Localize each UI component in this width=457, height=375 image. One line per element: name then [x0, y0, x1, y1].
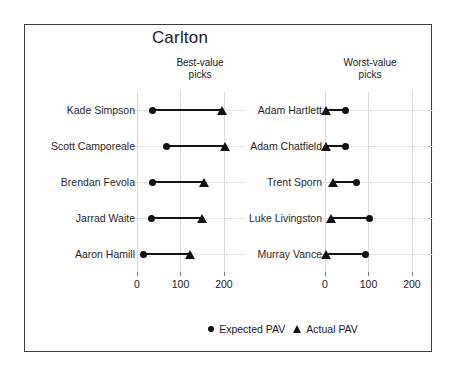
actual-pav-marker: [217, 106, 227, 115]
panel-heading-worst-value: Worst-value picks: [310, 57, 430, 81]
row-label-jarrad-waite: Jarrad Waite: [76, 212, 135, 225]
x-axis-tick: [137, 272, 138, 276]
actual-pav-marker: [321, 142, 331, 151]
panel-heading-line1: Best-value: [140, 57, 260, 69]
panel-best-value: 0100200 Kade SimpsonScott CamporealeBren…: [40, 92, 240, 292]
chart-legend: Expected PAV Actual PAV: [178, 320, 388, 338]
panel-worst-value: 0100200 Adam HartlettAdam ChatfieldTrent…: [233, 92, 429, 292]
panel-heading-line2: picks: [310, 69, 430, 81]
x-axis-tick-label: 0: [117, 278, 157, 290]
expected-pav-marker: [342, 143, 349, 150]
connector-line: [326, 253, 365, 255]
triangle-marker-icon: [293, 325, 301, 333]
plot-area-best-value: 0100200: [137, 92, 237, 272]
x-axis-tick: [325, 272, 326, 276]
row-label-adam-hartlett: Adam Hartlett: [258, 104, 322, 117]
panel-heading-line1: Worst-value: [310, 57, 430, 69]
actual-pav-marker: [321, 250, 331, 259]
chart-figure: Carlton Best-value picks Worst-value pic…: [0, 0, 457, 375]
connector-line: [167, 145, 225, 147]
x-axis-tick: [224, 272, 225, 276]
expected-pav-marker: [149, 107, 156, 114]
panel-heading-line2: picks: [140, 69, 260, 81]
x-axis-tick-label: 100: [160, 278, 200, 290]
connector-line: [152, 217, 202, 219]
actual-pav-marker: [199, 178, 209, 187]
expected-pav-marker: [149, 179, 156, 186]
actual-pav-marker: [185, 250, 195, 259]
actual-pav-marker: [321, 106, 331, 115]
legend-item-actual-pav: Actual PAV: [293, 323, 358, 335]
row-label-trent-sporn: Trent Sporn: [267, 176, 322, 189]
actual-pav-marker: [326, 214, 336, 223]
actual-pav-marker: [220, 142, 230, 151]
row-label-murray-vance: Murray Vance: [257, 248, 322, 261]
row-label-aaron-hamill: Aaron Hamill: [75, 248, 135, 261]
connector-line: [152, 181, 204, 183]
actual-pav-marker: [197, 214, 207, 223]
row-label-adam-chatfield: Adam Chatfield: [250, 140, 322, 153]
expected-pav-marker: [163, 143, 170, 150]
actual-pav-marker: [328, 178, 338, 187]
row-label-kade-simpson: Kade Simpson: [67, 104, 135, 117]
x-axis-tick: [368, 272, 369, 276]
plot-area-worst-value: 0100200: [325, 92, 425, 272]
x-axis-tick: [180, 272, 181, 276]
legend-item-expected-pav: Expected PAV: [208, 323, 285, 335]
legend-label: Expected PAV: [219, 323, 285, 335]
expected-pav-marker: [362, 251, 369, 258]
connector-line: [331, 217, 370, 219]
row-label-brendan-fevola: Brendan Fevola: [61, 176, 135, 189]
chart-title: Carlton: [100, 28, 260, 48]
legend-label: Actual PAV: [306, 323, 358, 335]
expected-pav-marker: [366, 215, 373, 222]
x-axis-tick-label: 100: [348, 278, 388, 290]
expected-pav-marker: [148, 215, 155, 222]
x-axis-tick-label: 0: [305, 278, 345, 290]
row-label-luke-livingston: Luke Livingston: [249, 212, 322, 225]
x-axis-tick-label: 200: [392, 278, 432, 290]
expected-pav-marker: [140, 251, 147, 258]
connector-line: [144, 253, 190, 255]
x-axis-tick: [412, 272, 413, 276]
connector-line: [153, 109, 223, 111]
row-label-scott-camporeale: Scott Camporeale: [51, 140, 135, 153]
circle-marker-icon: [208, 326, 214, 332]
expected-pav-marker: [353, 179, 360, 186]
panel-heading-best-value: Best-value picks: [140, 57, 260, 81]
expected-pav-marker: [342, 107, 349, 114]
